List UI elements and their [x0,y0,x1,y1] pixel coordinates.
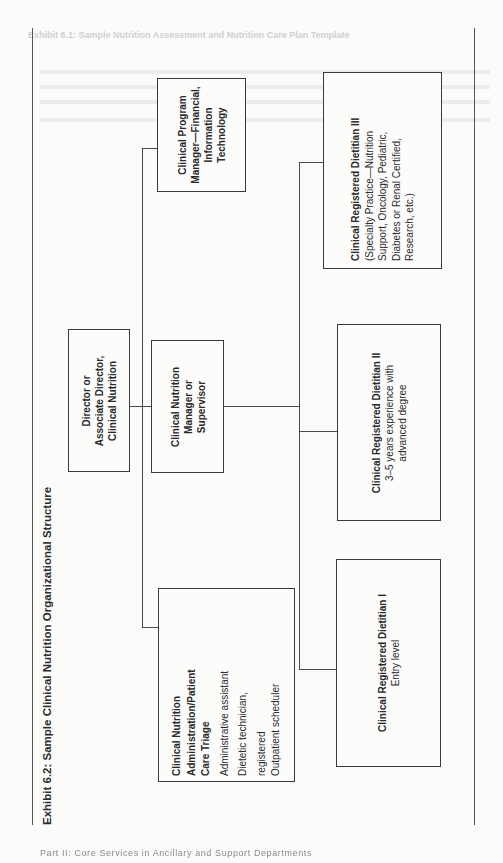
director-box: Director or Associate Director, Clinical… [68,329,130,472]
rd-three-detail-3: Diabetes or Renal Certified, [389,81,403,261]
administration-item-3: registered [254,594,269,776]
manager-line-1: Clinical Nutrition [168,344,181,469]
director-line-2: Associate Director, [93,333,106,468]
administration-connector [142,627,158,628]
rd-three-detail-4: Research, etc.) [403,81,417,261]
director-line-3: Clinical Nutrition [106,333,119,468]
rd-one-connector [299,669,336,670]
program-manager-connector [142,148,157,149]
rd-three-connector [299,162,323,163]
manager-box: Clinical Nutrition Manager or Supervisor [151,340,224,473]
bleed-through-header: Exhibit 6.1: Sample Nutrition Assessment… [28,30,498,40]
rd-two-connector [299,431,337,432]
manager-to-dietitians-line [223,406,299,407]
director-line-1: Director or [80,333,93,468]
program-manager-line-1: Clinical Program [176,80,189,190]
rd-one-detail-1: Entry level [389,566,402,761]
right-page-rule [474,28,475,825]
rd-two-title: Clinical Registered Dietitian II [370,330,383,515]
exhibit-title: Exhibit 6.2: Sample Clinical Nutrition O… [41,487,53,825]
program-manager-box: Clinical Program Manager—Financial, Info… [157,78,246,192]
manager-connector [142,406,151,407]
rd-one-title: Clinical Registered Dietitian I [376,566,389,761]
running-footer: Part II: Core Services in Ancillary and … [40,848,312,858]
left-page-rule [32,28,33,825]
rd-three-box: Clinical Registered Dietitian III (Speci… [323,72,442,269]
dietitian-branch-line [299,162,300,670]
program-manager-line-2: Manager—Financial, [189,80,202,190]
rd-two-detail-2: advanced degree [396,330,409,515]
administration-box: Clinical Nutrition Administration/Patien… [158,588,295,782]
administration-item-1: Administrative assistant [217,594,232,776]
administration-title-3: Care Triage [199,594,214,776]
rd-two-detail-1: 3–5 years experience with [383,330,396,515]
rd-three-title: Clinical Registered Dietitian III [349,81,363,261]
manager-line-2: Manager or [181,344,194,469]
manager-line-3: Supervisor [194,344,207,469]
rd-three-detail-2: Support, Oncology, Pediatric, [376,81,390,261]
program-manager-line-4: Technology [215,80,228,190]
director-connector [129,406,142,407]
rd-one-box: Clinical Registered Dietitian I Entry le… [336,559,441,767]
program-manager-line-3: Information [202,80,215,190]
administration-title-1: Clinical Nutrition [170,594,185,776]
administration-item-2: Dietetic technician, [236,594,251,776]
trunk-line [142,148,143,628]
administration-title-2: Administration/Patient [184,594,199,776]
rd-two-box: Clinical Registered Dietitian II 3–5 yea… [337,324,441,521]
administration-item-4: Outpatient scheduler [269,594,284,776]
rd-three-detail-1: (Specialty Practice—Nutrition [362,81,376,261]
